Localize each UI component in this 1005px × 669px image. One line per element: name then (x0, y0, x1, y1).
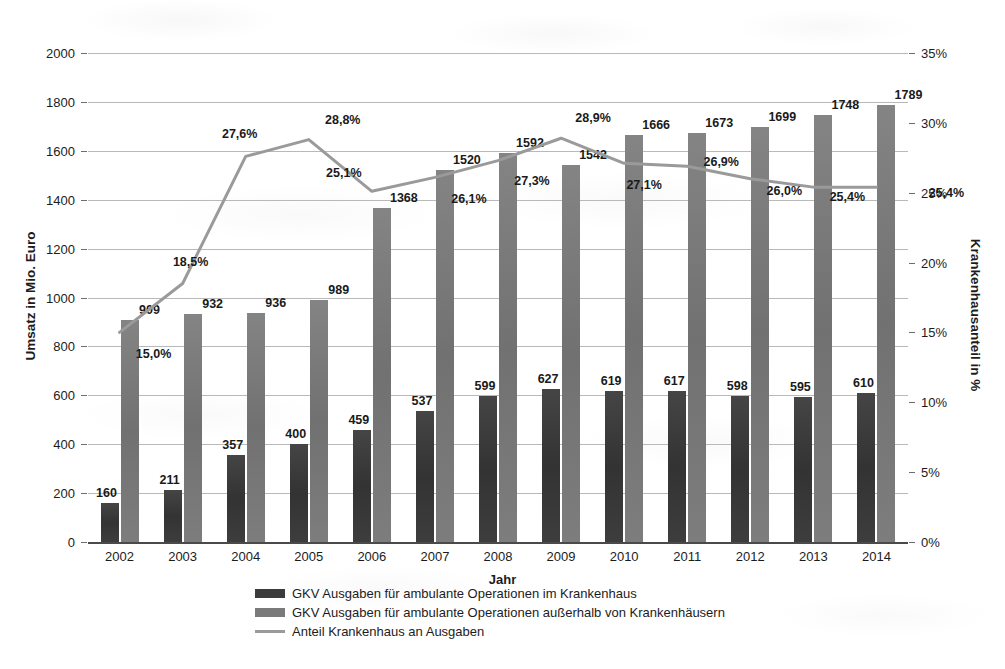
x-axis-tick-label: 2008 (484, 549, 513, 564)
bar-krankenhaus[interactable] (794, 397, 812, 542)
y-axis-left-tick-label: 1800 (46, 94, 75, 109)
bar-krankenhaus[interactable] (416, 411, 434, 542)
bar-value-label-krankenhaus: 160 (96, 486, 117, 500)
line-value-label-anteil: 26,0% (767, 184, 802, 198)
x-axis-tick-label: 2009 (547, 549, 576, 564)
bar-value-label-krankenhaus: 400 (285, 427, 306, 441)
line-value-label-anteil: 25,1% (326, 166, 361, 180)
line-value-label-anteil: 28,9% (575, 111, 610, 125)
y-axis-right-tick-label: 0% (921, 535, 940, 550)
bar-ausserhalb[interactable] (184, 314, 202, 542)
bar-value-label-krankenhaus: 211 (160, 473, 180, 487)
legend-label-krankenhaus: GKV Ausgaben für ambulante Operationen i… (292, 586, 637, 601)
y-axis-left-tick-label: 400 (53, 437, 75, 452)
bar-ausserhalb[interactable] (436, 170, 454, 542)
y-axis-right-tick (909, 472, 915, 473)
bar-ausserhalb[interactable] (562, 165, 580, 542)
x-axis-title: Jahr (0, 572, 1005, 587)
y-axis-left-tick-label: 800 (53, 339, 75, 354)
line-value-label-anteil: 26,1% (451, 192, 486, 206)
x-axis-tick-label: 2004 (231, 549, 260, 564)
x-axis-tick-label: 2005 (294, 549, 323, 564)
y-axis-right-tick-label: 10% (921, 395, 947, 410)
y-axis-right-tick-label: 5% (921, 465, 940, 480)
legend-swatch-bar-dark (255, 589, 285, 598)
bar-krankenhaus[interactable] (857, 393, 875, 542)
x-axis-tick-label: 2014 (862, 549, 891, 564)
line-value-label-anteil: 26,9% (703, 155, 738, 169)
legend-swatch-bar-gray (255, 608, 285, 617)
legend-swatch-line (255, 630, 285, 633)
bar-group (782, 53, 845, 542)
y-axis-left-tick-label: 1600 (46, 143, 75, 158)
y-axis-left-tick (81, 346, 87, 347)
y-axis-left-tick (81, 53, 87, 54)
legend-item-krankenhaus[interactable]: GKV Ausgaben für ambulante Operationen i… (255, 586, 725, 601)
plot-area: 0200400600800100012001400160018002000 0%… (88, 53, 908, 542)
bar-ausserhalb[interactable] (688, 133, 706, 542)
bar-krankenhaus[interactable] (164, 490, 182, 542)
y-axis-right-tick (909, 542, 915, 543)
y-axis-right-tick-label: 35% (921, 46, 947, 61)
y-axis-left-tick (81, 151, 87, 152)
line-value-label-anteil: 27,3% (514, 174, 549, 188)
y-axis-right-tick (909, 263, 915, 264)
bar-group (403, 53, 466, 542)
bar-ausserhalb[interactable] (310, 300, 328, 542)
bar-ausserhalb[interactable] (814, 115, 832, 542)
y-axis-left-tick-label: 2000 (46, 46, 75, 61)
legend-label-anteil: Anteil Krankenhaus an Ausgaben (292, 624, 484, 639)
y-axis-right-tick (909, 332, 915, 333)
y-axis-left-tick (81, 542, 87, 543)
bar-value-label-krankenhaus: 357 (222, 438, 243, 452)
bar-ausserhalb[interactable] (877, 105, 895, 542)
y-axis-left-tick-label: 600 (53, 388, 75, 403)
bar-value-label-krankenhaus: 537 (411, 394, 432, 408)
bar-krankenhaus[interactable] (605, 391, 623, 542)
bar-ausserhalb[interactable] (625, 135, 643, 542)
bar-value-label-krankenhaus: 595 (790, 380, 811, 394)
bar-krankenhaus[interactable] (290, 444, 308, 542)
bar-krankenhaus[interactable] (227, 455, 245, 542)
y-axis-left-tick (81, 395, 87, 396)
bar-value-label-krankenhaus: 459 (348, 413, 369, 427)
line-value-label-anteil: 25,4% (830, 190, 865, 204)
y-axis-left-tick (81, 493, 87, 494)
y-axis-left-tick-label: 1200 (46, 241, 75, 256)
bar-krankenhaus[interactable] (101, 503, 119, 542)
y-axis-left-tick (81, 102, 87, 103)
x-axis-tick-label: 2006 (357, 549, 386, 564)
chart-legend: GKV Ausgaben für ambulante Operationen i… (255, 586, 725, 639)
y-axis-right-tick (909, 53, 915, 54)
bar-ausserhalb[interactable] (499, 153, 517, 542)
y-axis-right-tick (909, 402, 915, 403)
y-axis-left-tick-label: 0 (68, 535, 75, 550)
bar-krankenhaus[interactable] (353, 430, 371, 542)
y-axis-right-tick-label: 15% (921, 325, 947, 340)
bar-krankenhaus[interactable] (542, 389, 560, 542)
x-axis-tick-label: 2013 (799, 549, 828, 564)
x-axis-tick-label: 2003 (168, 549, 197, 564)
line-value-label-anteil: 25,4% (929, 186, 964, 200)
x-axis-tick-label: 2010 (610, 549, 639, 564)
bar-group (719, 53, 782, 542)
line-value-label-anteil: 15,0% (136, 347, 171, 361)
bar-krankenhaus[interactable] (479, 396, 497, 542)
y-axis-left-tick (81, 249, 87, 250)
legend-item-ausserhalb[interactable]: GKV Ausgaben für ambulante Operationen a… (255, 605, 725, 620)
x-axis-tick-label: 2011 (673, 549, 701, 564)
bar-ausserhalb[interactable] (247, 313, 265, 542)
bar-krankenhaus[interactable] (731, 396, 749, 542)
line-value-label-anteil: 27,6% (222, 127, 257, 141)
legend-item-anteil[interactable]: Anteil Krankenhaus an Ausgaben (255, 624, 725, 639)
bar-ausserhalb[interactable] (373, 208, 391, 542)
bar-value-label-krankenhaus: 598 (727, 379, 748, 393)
y-axis-left-tick-label: 1400 (46, 192, 75, 207)
bar-value-label-ausserhalb: 1789 (895, 88, 923, 102)
x-axis-tick-label: 2012 (736, 549, 765, 564)
legend-label-ausserhalb: GKV Ausgaben für ambulante Operationen a… (292, 605, 725, 620)
y-axis-left-tick-label: 1000 (46, 290, 75, 305)
bar-value-label-krankenhaus: 619 (601, 374, 622, 388)
bar-krankenhaus[interactable] (668, 391, 686, 542)
bar-value-label-krankenhaus: 627 (538, 372, 559, 386)
